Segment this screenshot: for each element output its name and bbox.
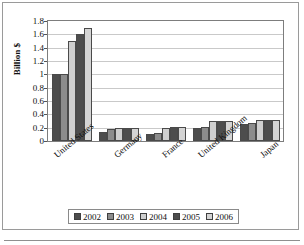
bar[interactable] <box>107 129 115 141</box>
y-tick-label: 1 <box>2 69 44 79</box>
legend-swatch-icon <box>74 213 81 220</box>
legend-item[interactable]: 2003 <box>107 212 134 222</box>
y-tick-label: 0.8 <box>2 83 44 93</box>
y-tick-label: 1.2 <box>2 56 44 66</box>
legend-item[interactable]: 2004 <box>140 212 167 222</box>
chart-legend: 20022003200420052006 <box>68 209 239 224</box>
y-axis-ticks: 1.81.61.41.210.80.60.40.20 <box>0 20 44 142</box>
bar[interactable] <box>60 74 68 141</box>
legend-item[interactable]: 2005 <box>173 212 200 222</box>
y-tick-label: 1.8 <box>2 16 44 26</box>
legend-label: 2006 <box>215 212 233 222</box>
y-tick-label: 0.6 <box>2 96 44 106</box>
legend-label: 2003 <box>116 212 134 222</box>
legend-label: 2004 <box>149 212 167 222</box>
bar[interactable] <box>52 74 60 141</box>
bar[interactable] <box>193 128 201 141</box>
bar[interactable] <box>248 123 256 141</box>
bar-group <box>193 21 233 141</box>
bar[interactable] <box>99 132 107 141</box>
bar[interactable] <box>264 120 272 141</box>
legend-label: 2002 <box>83 212 101 222</box>
figure-bottom-rule <box>4 240 300 241</box>
y-tick-label: 0.4 <box>2 109 44 119</box>
legend-swatch-icon <box>140 213 147 220</box>
legend-swatch-icon <box>173 213 180 220</box>
legend-swatch-icon <box>107 213 114 220</box>
legend-item[interactable]: 2002 <box>74 212 101 222</box>
bar[interactable] <box>68 41 76 141</box>
y-tick-label: 1.6 <box>2 29 44 39</box>
chart-figure: Billion $ 1.81.61.41.210.80.60.40.20 Uni… <box>0 0 304 245</box>
bar-groups <box>48 21 283 141</box>
y-tick-label: 1.4 <box>2 43 44 53</box>
y-tick-label: 0 <box>2 136 44 146</box>
legend-swatch-icon <box>206 213 213 220</box>
bar[interactable] <box>146 134 154 141</box>
y-tick-label: 0.2 <box>2 123 44 133</box>
bar[interactable] <box>115 128 123 141</box>
bar[interactable] <box>154 133 162 141</box>
bar-group <box>99 21 139 141</box>
bar[interactable] <box>162 128 170 141</box>
bar[interactable] <box>256 120 264 141</box>
legend-label: 2005 <box>182 212 200 222</box>
bar[interactable] <box>201 127 209 141</box>
legend-item[interactable]: 2006 <box>206 212 233 222</box>
bar-group <box>146 21 186 141</box>
